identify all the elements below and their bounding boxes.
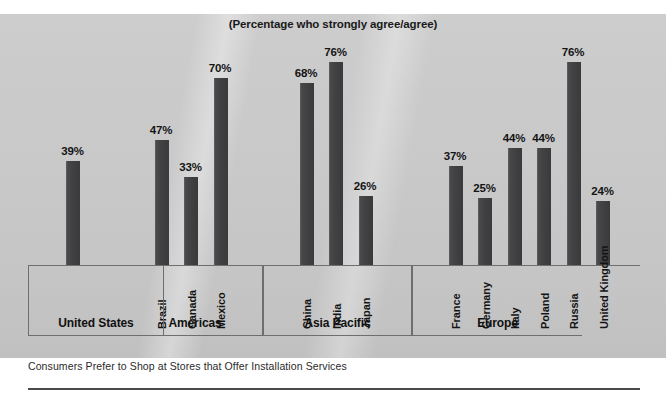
bar xyxy=(329,62,343,265)
bottom-rule xyxy=(28,388,640,390)
bar xyxy=(66,161,80,265)
bar xyxy=(537,148,551,265)
bar-value-label: 68% xyxy=(283,67,329,79)
group-box: Europe xyxy=(412,266,582,336)
bar-value-label: 33% xyxy=(168,161,214,173)
bar xyxy=(359,196,373,265)
bar-value-label: 26% xyxy=(342,180,388,192)
bar xyxy=(184,177,198,265)
bar xyxy=(508,148,522,265)
bar-value-label: 47% xyxy=(138,124,184,136)
bar-value-label: 37% xyxy=(432,150,478,162)
bar xyxy=(567,62,581,265)
group-label: Asia Pacific xyxy=(264,316,411,330)
bar-value-label: 76% xyxy=(313,46,359,58)
group-box: Asia Pacific xyxy=(263,266,412,336)
bar xyxy=(300,83,314,265)
bar-value-label: 24% xyxy=(580,185,626,197)
group-label: Americas xyxy=(128,316,262,330)
bar-value-label: 39% xyxy=(50,145,96,157)
bar xyxy=(214,78,228,265)
bar xyxy=(478,198,492,265)
group-label: Europe xyxy=(413,316,582,330)
bar-value-label: 70% xyxy=(197,62,243,74)
plot-area: 39%47%Brazil33%Canada70%Mexico68%China76… xyxy=(0,14,666,358)
chart-page: (Percentage who strongly agree/agree) 39… xyxy=(0,0,666,397)
bar-value-label: 25% xyxy=(462,182,508,194)
bar-value-label: 44% xyxy=(521,132,567,144)
bar-value-label: 76% xyxy=(550,46,596,58)
chart-caption: Consumers Prefer to Shop at Stores that … xyxy=(28,360,347,372)
bar xyxy=(155,140,169,265)
bar-category-label: United Kingdom xyxy=(598,245,610,329)
group-box: Americas xyxy=(128,266,263,336)
bar xyxy=(449,166,463,265)
